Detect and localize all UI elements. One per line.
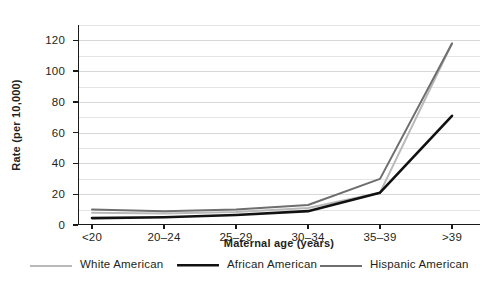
- chart-figure: Rate (per 10,000) Maternal age (years) 0…: [0, 0, 495, 286]
- x-tick-mark: [91, 225, 92, 229]
- x-tick-label: 35–39: [364, 231, 397, 243]
- series-lines: [78, 25, 480, 225]
- chart-legend: White AmericanAfrican AmericanHispanic A…: [0, 258, 495, 282]
- x-tick-mark: [451, 225, 452, 229]
- y-axis-title: Rate (per 10,000): [10, 79, 22, 170]
- legend-swatch-icon: [320, 258, 362, 270]
- y-tick-label: 100: [45, 65, 65, 77]
- x-tick-mark: [235, 225, 236, 229]
- x-tick-mark: [379, 225, 380, 229]
- y-tick-label: 20: [52, 188, 65, 200]
- legend-swatch-icon: [177, 258, 219, 270]
- legend-label: White American: [80, 258, 163, 270]
- legend-swatch-icon: [30, 258, 72, 270]
- y-tick-label: 80: [52, 96, 65, 108]
- y-tick-label: 120: [45, 34, 65, 46]
- legend-label: Hispanic American: [370, 258, 469, 270]
- y-tick-label: 40: [52, 157, 65, 169]
- series-line: [92, 116, 452, 218]
- plot-area: 020406080100120 <2020–2425–2930–3435–39>…: [78, 25, 480, 225]
- legend-item[interactable]: Hispanic American: [320, 258, 469, 270]
- x-tick-mark: [163, 225, 164, 229]
- x-tick-label: 25–29: [220, 231, 253, 243]
- x-tick-label: >39: [442, 231, 462, 243]
- x-tick-label: 20–24: [148, 231, 181, 243]
- x-tick-label: 30–34: [292, 231, 325, 243]
- x-tick-label: <20: [82, 231, 102, 243]
- legend-item[interactable]: African American: [177, 258, 317, 270]
- x-tick-mark: [307, 225, 308, 229]
- y-tick-label: 0: [58, 219, 65, 231]
- legend-label: African American: [227, 258, 317, 270]
- series-line: [92, 43, 452, 213]
- legend-item[interactable]: White American: [30, 258, 163, 270]
- y-tick-label: 60: [52, 127, 65, 139]
- series-line: [92, 43, 452, 211]
